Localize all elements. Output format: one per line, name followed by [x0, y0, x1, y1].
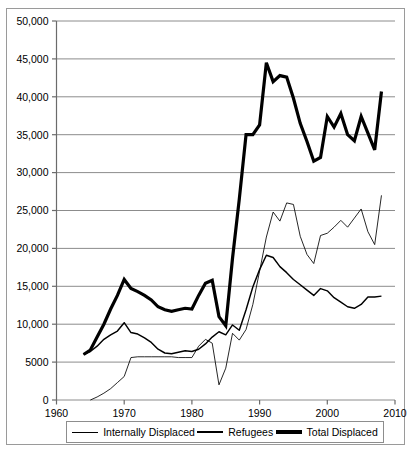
y-tick-label: 30,000 — [16, 166, 48, 178]
x-tick-label: 1970 — [113, 407, 137, 419]
legend-item-refugees: Refugees — [197, 427, 273, 438]
legend-item-internally-displaced: Internally Displaced — [72, 427, 195, 438]
x-axis-ticks — [57, 400, 396, 405]
x-tick-label: 1960 — [45, 407, 69, 419]
y-axis-ticks — [52, 21, 57, 400]
chart-legend: Internally Displaced Refugees Total Disp… — [66, 421, 384, 443]
y-tick-label: 50,000 — [16, 15, 48, 27]
legend-item-total-displaced: Total Displaced — [276, 427, 378, 438]
legend-swatch-thick-line-icon — [276, 430, 302, 433]
y-tick-label: 45,000 — [16, 53, 48, 65]
x-tick-label: 2000 — [316, 407, 340, 419]
y-axis-tick-labels: 0500010,00015,00020,00025,00030,00035,00… — [16, 15, 48, 406]
series-line-total-displaced — [84, 63, 382, 355]
y-tick-label: 35,000 — [16, 129, 48, 141]
gridlines — [57, 21, 396, 400]
y-tick-label: 0 — [43, 394, 49, 406]
x-tick-label: 1990 — [248, 407, 272, 419]
x-axis-tick-labels: 196019701980199020002010 — [45, 407, 407, 419]
legend-swatch-medium-line-icon — [197, 431, 223, 433]
y-tick-label: 25,000 — [16, 204, 48, 216]
x-tick-label: 2010 — [383, 407, 407, 419]
legend-swatch-thin-line-icon — [72, 432, 98, 433]
y-tick-label: 20,000 — [16, 242, 48, 254]
y-tick-label: 40,000 — [16, 91, 48, 103]
y-tick-label: 15,000 — [16, 280, 48, 292]
chart-figure: 0500010,00015,00020,00025,00030,00035,00… — [0, 0, 413, 453]
x-tick-label: 1980 — [180, 407, 204, 419]
line-chart: 0500010,00015,00020,00025,00030,00035,00… — [0, 0, 413, 453]
y-tick-label: 5000 — [25, 356, 49, 368]
legend-label-internally-displaced: Internally Displaced — [103, 427, 195, 438]
legend-label-refugees: Refugees — [228, 427, 273, 438]
legend-label-total-displaced: Total Displaced — [307, 427, 378, 438]
y-tick-label: 10,000 — [16, 318, 48, 330]
